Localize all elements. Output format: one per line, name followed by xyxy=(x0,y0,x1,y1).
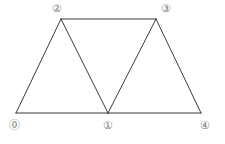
edge-group xyxy=(16,19,201,113)
mesh-edge-1-3 xyxy=(108,19,156,113)
vertex-label-2: ② xyxy=(50,2,64,15)
vertex-label-1: ① xyxy=(101,119,115,132)
mesh-edge-0-2 xyxy=(16,19,61,113)
vertex-label-4: ④ xyxy=(198,119,212,132)
vertex-label-0: ⓪ xyxy=(7,119,21,132)
mesh-edge-3-4 xyxy=(156,19,201,113)
vertex-label-3: ③ xyxy=(159,2,173,15)
mesh-edge-1-2 xyxy=(61,19,108,113)
mesh-diagram-canvas: ⓪①②③④ xyxy=(0,0,225,144)
